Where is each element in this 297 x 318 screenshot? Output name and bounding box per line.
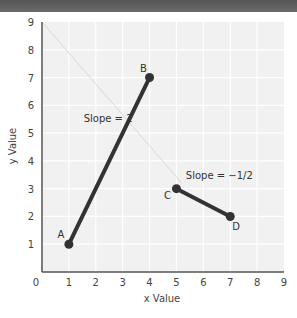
x-tick-label: 1 bbox=[66, 277, 72, 288]
x-tick-label: 6 bbox=[200, 277, 206, 288]
y-tick-label: 6 bbox=[28, 100, 34, 111]
y-tick-labels: 123456789 bbox=[28, 17, 34, 250]
x-tick-label: 7 bbox=[227, 277, 233, 288]
y-tick-label: 2 bbox=[28, 211, 34, 222]
y-tick-label: 1 bbox=[28, 239, 34, 250]
point-label-a: A bbox=[57, 229, 64, 240]
x-axis-label: x Value bbox=[144, 293, 181, 304]
point-b bbox=[145, 73, 154, 82]
point-c bbox=[172, 184, 181, 193]
slope-annotation: Slope = 2 bbox=[84, 113, 133, 124]
x-tick-label: 8 bbox=[254, 277, 260, 288]
plot-area bbox=[42, 22, 284, 272]
plot-background bbox=[42, 22, 284, 272]
x-tick-label: 2 bbox=[93, 277, 99, 288]
y-tick-label: 3 bbox=[28, 184, 34, 195]
y-tick-label: 7 bbox=[28, 73, 34, 84]
y-tick-label: 8 bbox=[28, 45, 34, 56]
x-tick-label: 0 bbox=[33, 277, 39, 288]
y-axis-label: y Value bbox=[7, 128, 18, 165]
x-tick-label: 3 bbox=[119, 277, 125, 288]
point-label-c: C bbox=[164, 190, 171, 201]
point-a bbox=[64, 240, 73, 249]
y-tick-label: 4 bbox=[28, 156, 34, 167]
y-tick-label: 5 bbox=[28, 128, 34, 139]
x-tick-labels: 0123456789 bbox=[33, 277, 287, 288]
slope-annotation: Slope = −1/2 bbox=[186, 170, 253, 181]
point-label-b: B bbox=[140, 63, 147, 74]
line-chart: 0123456789 123456789 ABCD Slope = 2Slope… bbox=[0, 0, 297, 318]
point-d bbox=[226, 212, 235, 221]
x-tick-label: 5 bbox=[173, 277, 179, 288]
y-tick-label: 9 bbox=[28, 17, 34, 28]
x-tick-label: 9 bbox=[281, 277, 287, 288]
x-tick-label: 4 bbox=[146, 277, 152, 288]
point-label-d: D bbox=[232, 221, 240, 232]
